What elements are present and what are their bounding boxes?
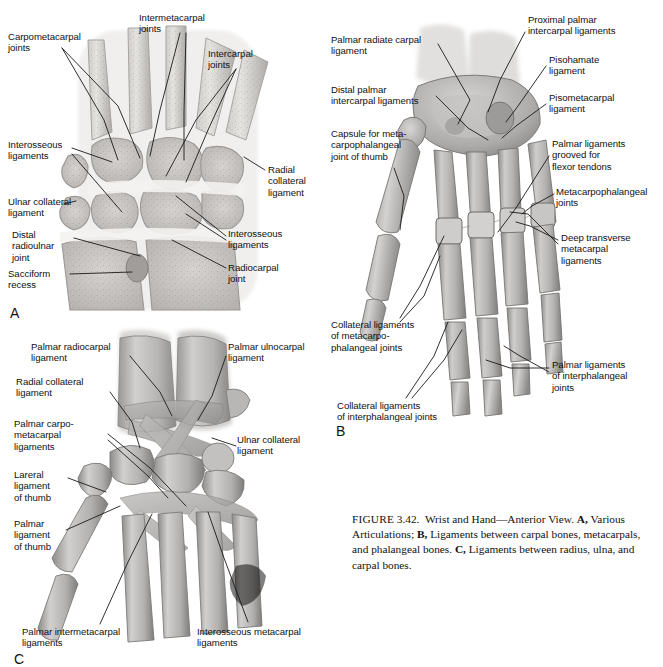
label-interosseous-ligaments-right: Interosseous ligaments <box>228 228 282 251</box>
caption-part-c-letter: C, <box>455 543 466 555</box>
label-radial-collateral-ligament: Radial collateral ligament <box>268 164 306 198</box>
label-deep-transverse-metacarpal-ligaments: Deep transverse metacarpal ligaments <box>561 232 631 266</box>
label-carpometacarpal-joints: Carpometacarpal joints <box>8 31 81 54</box>
figure-caption: FIGURE 3.42. Wrist and Hand—Anterior Vie… <box>352 512 652 573</box>
label-proximal-palmar-intercarpal-ligaments: Proximal palmar intercarpal ligaments <box>528 14 615 37</box>
label-palmar-ligaments-grooved-for-flexor-tendons: Palmar ligaments grooved for flexor tend… <box>552 138 625 172</box>
label-palmar-carpometacarpal-ligaments: Palmar carpo- metacarpal ligaments <box>14 418 74 452</box>
caption-figure-word: FIGURE <box>352 513 394 525</box>
panel-letter-b: B <box>336 424 345 438</box>
label-capsule-for-mcp-joint-of-thumb: Capsule for meta- carpophalangeal joint … <box>331 128 406 162</box>
label-pisometacarpal-ligament: Pisometacarpal ligament <box>549 92 614 115</box>
caption-part-b-letter: B, <box>417 528 427 540</box>
panel-letter-a: A <box>10 306 19 320</box>
label-intermetacarpal-joints: Intermetacarpal joints <box>139 12 205 35</box>
caption-figure-number: 3.42. <box>397 513 420 525</box>
label-interosseous-metacarpal-ligaments: Interosseous metacarpal ligaments <box>197 626 301 649</box>
label-distal-palmar-intercarpal-ligaments: Distal palmar intercarpal ligaments <box>331 84 418 107</box>
label-radial-collateral-ligament-c: Radial collateral ligament <box>16 376 83 399</box>
label-metacarpophalangeal-joints: Metacarpophalangeal joints <box>556 186 647 209</box>
label-palmar-intermetacarpal-ligaments: Palmar intermetacarpal ligaments <box>22 626 120 649</box>
label-lareral-ligament-of-thumb: Lareral ligament of thumb <box>14 469 51 503</box>
label-collateral-ligaments-of-ip-joints: Collateral ligaments of interphalangeal … <box>337 400 437 423</box>
label-radiocarpal-joint: Radiocarpal joint <box>228 262 279 285</box>
caption-title: Wrist and Hand—Anterior View. <box>425 513 574 525</box>
label-palmar-ligament-of-thumb: Palmar ligament of thumb <box>14 518 51 552</box>
panel-c-thumb <box>38 495 108 640</box>
label-palmar-ligaments-of-ip-joints: Palmar ligaments of interphalangeal join… <box>552 359 627 393</box>
label-palmar-radiate-carpal-ligament: Palmar radiate carpal ligament <box>331 34 421 57</box>
label-ulnar-collateral-ligament-c: Ulnar collateral ligament <box>237 434 300 457</box>
label-ulnar-collateral-ligament: Ulnar collateral ligament <box>8 196 71 219</box>
label-pisohamate-ligament: Pisohamate ligament <box>549 54 599 77</box>
label-intercarpal-joints: Intercarpal joints <box>208 48 253 71</box>
label-interosseous-ligaments-left: Interosseous ligaments <box>8 139 62 162</box>
label-distal-radioulnar-joint: Distal radioulnar joint <box>12 229 54 263</box>
label-palmar-radiocarpal-ligament: Palmar radiocarpal ligament <box>31 341 111 364</box>
caption-part-a-letter: A, <box>577 513 588 525</box>
label-palmar-ulnocarpal-ligament: Palmar ulnocarpal ligament <box>228 341 304 364</box>
label-collateral-ligaments-of-mcp-joints: Collateral ligaments of metacarpo- phala… <box>331 319 414 353</box>
label-sacciform-recess: Sacciform recess <box>8 268 50 291</box>
panel-letter-c: C <box>14 652 24 666</box>
